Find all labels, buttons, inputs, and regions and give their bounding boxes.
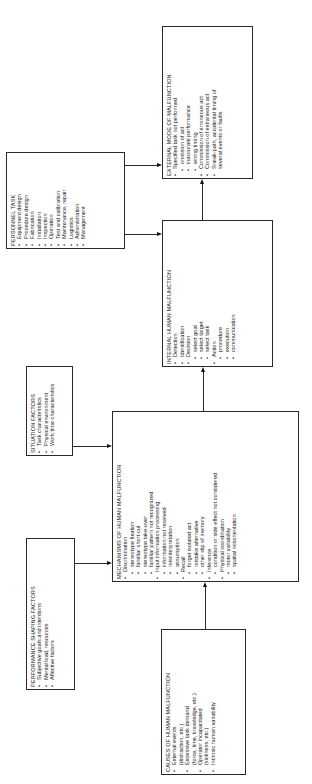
list-item: communication <box>230 225 236 364</box>
situation-factors-box: SITUATION FACTORS Task characteristicsPh… <box>26 366 73 456</box>
connector-internal-external <box>202 183 203 220</box>
arrowhead-icon <box>107 444 112 448</box>
causes-list: External events(distraction, etc.)Excess… <box>171 634 216 772</box>
personnel-task-list: Equipment designProcedure designFabricat… <box>16 157 86 246</box>
internal-malfunction-list: DetectionIdentificationDecisionselect go… <box>172 225 236 364</box>
personnel-task-content: PERSONNEL TASK Equipment designProcedure… <box>7 153 126 250</box>
psf-list: Subjective goals and intentionsMental lo… <box>36 543 55 687</box>
internal-malfunction-content: INTERNAL HUMAN MALFUNCTION DetectionIden… <box>163 221 274 368</box>
list-item: several events or faults <box>217 31 223 176</box>
mechanisms-list: Discriminationstereotype fixationfamilia… <box>122 416 237 579</box>
arrowhead-icon <box>203 582 207 587</box>
connector-causes-mechanisms <box>205 586 206 629</box>
performance-shaping-factors-box: PERFORMANCE SHAPING FACTORS Subjective g… <box>26 538 75 690</box>
connector-situation-mechanisms <box>73 446 108 447</box>
list-item: Intrinsic human variability <box>210 634 216 772</box>
list-item: Affective factors <box>49 543 55 687</box>
connector-mechanisms-internal <box>203 371 204 411</box>
list-item: Work time characteristics <box>49 371 55 453</box>
connector-personnel-external <box>125 165 158 166</box>
external-mode-box: EXTERNAL MODE OF MALFUNCTION Specified t… <box>162 26 253 179</box>
external-mode-list: Specified task not performedomission of … <box>172 31 223 176</box>
arrowhead-icon <box>201 367 205 372</box>
arrowhead-icon <box>157 163 162 167</box>
psf-content: PERFORMANCE SHAPING FACTORS Subjective g… <box>27 539 76 691</box>
causes-content: CAUSES OF HUMAN MALFUNCTION External eve… <box>162 630 247 776</box>
mechanisms-content: MECHANISMS OF HUMAN MALFUNCTION Discrimi… <box>113 412 300 583</box>
arrowhead-icon <box>107 561 112 565</box>
situation-factors-list: Task characteristicsPhysical environment… <box>36 371 55 453</box>
personnel-task-box: PERSONNEL TASK Equipment designProcedure… <box>6 152 125 249</box>
list-item: Management <box>80 157 86 246</box>
arrowhead-icon <box>200 179 204 184</box>
causes-box: CAUSES OF HUMAN MALFUNCTION External eve… <box>161 629 246 775</box>
internal-malfunction-box: INTERNAL HUMAN MALFUNCTION DetectionIden… <box>162 220 273 367</box>
connector-personnel-internal <box>125 234 158 235</box>
external-mode-content: EXTERNAL MODE OF MALFUNCTION Specified t… <box>163 27 254 180</box>
mechanisms-box: MECHANISMS OF HUMAN MALFUNCTION Discrimi… <box>112 411 299 582</box>
arrowhead-icon <box>157 232 162 236</box>
situation-factors-content: SITUATION FACTORS Task characteristicsPh… <box>27 367 74 457</box>
list-item: spatial misorientation <box>231 416 237 579</box>
connector-psf-mechanisms <box>75 563 108 564</box>
